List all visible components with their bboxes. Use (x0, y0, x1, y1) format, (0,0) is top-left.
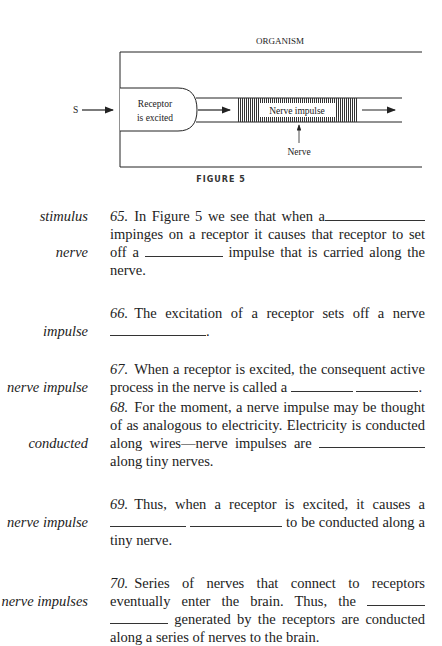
blank[interactable] (110, 514, 186, 527)
svg-text:Nerve impulse: Nerve impulse (269, 106, 325, 116)
blank[interactable] (110, 611, 168, 624)
answer-70: nerve impulses (0, 592, 88, 610)
blank[interactable] (356, 379, 418, 392)
figure-caption: FIGURE 5 (0, 175, 442, 184)
frame-70: 70.Series of nerves that connect to rece… (110, 574, 425, 646)
blank[interactable] (367, 593, 425, 606)
answer-69: nerve impulse (0, 513, 88, 531)
frame-67: 67.When a receptor is excited, the conse… (110, 360, 425, 396)
blank[interactable] (145, 244, 223, 257)
nerve-label: Nerve (287, 147, 310, 157)
frame-69: 69.Thus, when a receptor is excited, it … (110, 495, 425, 549)
stimulus-label: S (73, 105, 78, 115)
answer-68: conducted (0, 434, 88, 452)
frame-66: 66.The excitation of a receptor sets off… (110, 304, 425, 340)
answer-65b: nerve (0, 243, 88, 261)
answer-66: impulse (0, 322, 88, 340)
figure-5: ORGANISM Receptor is excited S Nerve imp… (0, 0, 442, 200)
nerve-diagram: ORGANISM Receptor is excited S Nerve imp… (0, 0, 442, 200)
answer-65a: stimulus (0, 207, 88, 225)
blank[interactable] (110, 323, 206, 336)
organism-label: ORGANISM (256, 36, 304, 46)
blank[interactable] (190, 514, 282, 527)
answer-67: nerve impulse (0, 378, 88, 396)
blank[interactable] (291, 379, 353, 392)
blank[interactable] (325, 208, 425, 221)
blank[interactable] (319, 435, 425, 448)
frame-68: 68.For the moment, a nerve impulse may b… (110, 398, 425, 470)
svg-text:Receptor: Receptor (138, 99, 173, 109)
svg-text:is excited: is excited (137, 113, 173, 123)
frame-65: 65.In Figure 5 we see that when a imping… (110, 207, 425, 279)
